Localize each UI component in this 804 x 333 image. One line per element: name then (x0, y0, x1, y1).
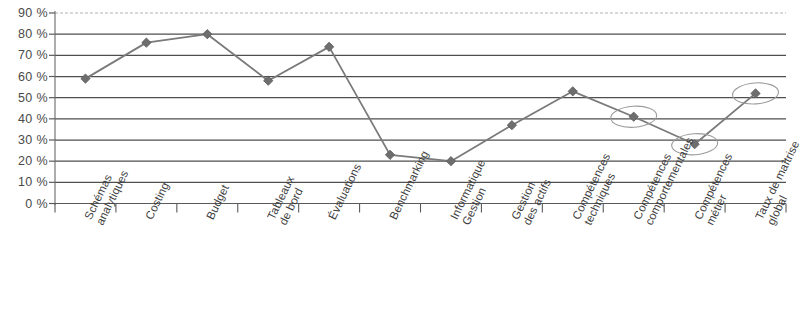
x-axis-category-label: Compétencesmétier (692, 151, 746, 227)
x-axis-category-label: InformatiqueGestion (448, 157, 499, 227)
x-axis-category-label: Costing (143, 180, 172, 221)
x-axis-category-label: Gestiondes actifs (509, 171, 553, 227)
x-axis-category-label: Tableauxde bord (265, 173, 308, 226)
x-axis-category-label-line: Costing (143, 180, 171, 221)
x-axis-category-label: Évaluations (326, 161, 364, 221)
x-axis-category-label: Taux de maîtriseglobal (753, 138, 804, 226)
x-axis-category-label: Benchmarking (387, 148, 431, 221)
x-axis-category-label: Compétencescomportementales (631, 129, 696, 227)
x-axis-category-label-line: Évaluations (326, 161, 363, 221)
x-axis-category-label: Budget (204, 182, 232, 221)
x-axis-category-label: Schémasanalytiques (82, 162, 131, 226)
x-axis-category-label-line: Budget (204, 182, 231, 221)
x-axis-category-label-line: Benchmarking (387, 148, 431, 220)
x-axis-category-label: Compétencestechniques (570, 151, 624, 227)
